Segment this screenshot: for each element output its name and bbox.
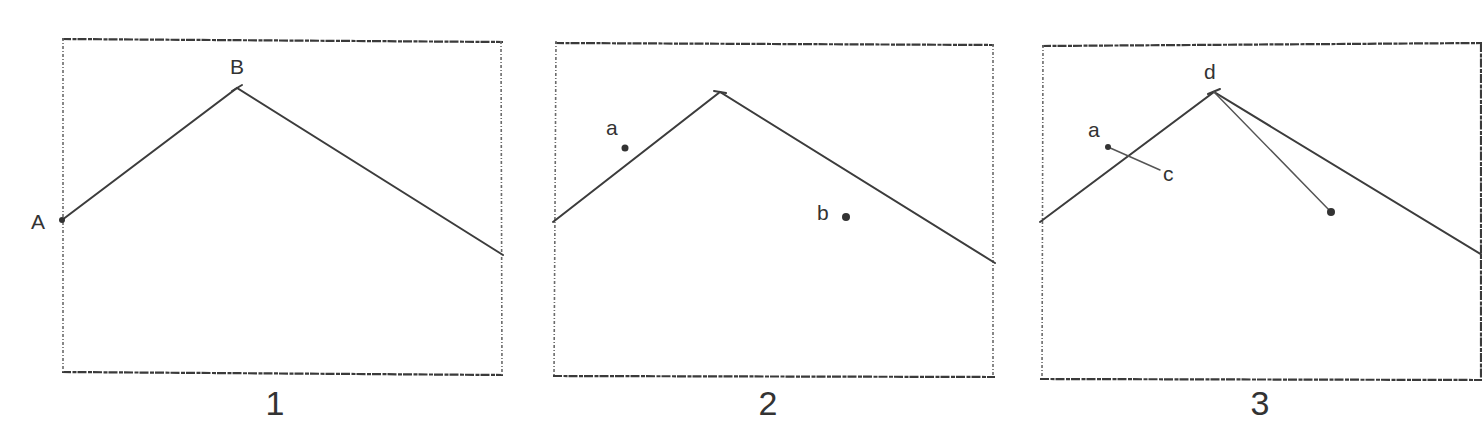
panel-number-3: 3: [1251, 384, 1270, 422]
frame-top: [555, 43, 994, 45]
label-b: b: [817, 201, 829, 224]
diagram-canvas: A B 1 a b 2 a c d 3: [0, 0, 1482, 443]
panel-number-1: 1: [266, 384, 285, 422]
frame-bottom: [553, 376, 995, 377]
roof-line: [62, 88, 503, 255]
frame-bottom: [1040, 379, 1482, 380]
end-point-dot: [1327, 208, 1335, 216]
label-A: A: [31, 210, 45, 233]
point-a-dot: [1105, 144, 1111, 150]
frame-bottom: [62, 372, 503, 375]
label-B: B: [230, 55, 244, 78]
panel-2: a b 2: [553, 41, 995, 422]
frame-right: [501, 41, 502, 375]
point-a-dot: [622, 145, 629, 152]
frame-left: [1042, 45, 1043, 378]
frame-top: [1042, 43, 1482, 46]
frame-left: [554, 41, 556, 376]
frame-top: [62, 39, 503, 42]
panel-3: a c d 3: [1040, 43, 1482, 422]
panel-1: A B 1: [31, 38, 503, 422]
roof-line: [1040, 92, 1482, 255]
peak-tick: [714, 91, 726, 93]
panel-number-2: 2: [759, 384, 778, 422]
label-c: c: [1163, 162, 1174, 185]
roof-line: [553, 92, 995, 263]
point-b-dot: [842, 213, 850, 221]
label-a: a: [1088, 118, 1100, 141]
label-d: d: [1204, 60, 1216, 83]
label-a: a: [606, 116, 618, 139]
point-a-dot: [59, 217, 65, 223]
